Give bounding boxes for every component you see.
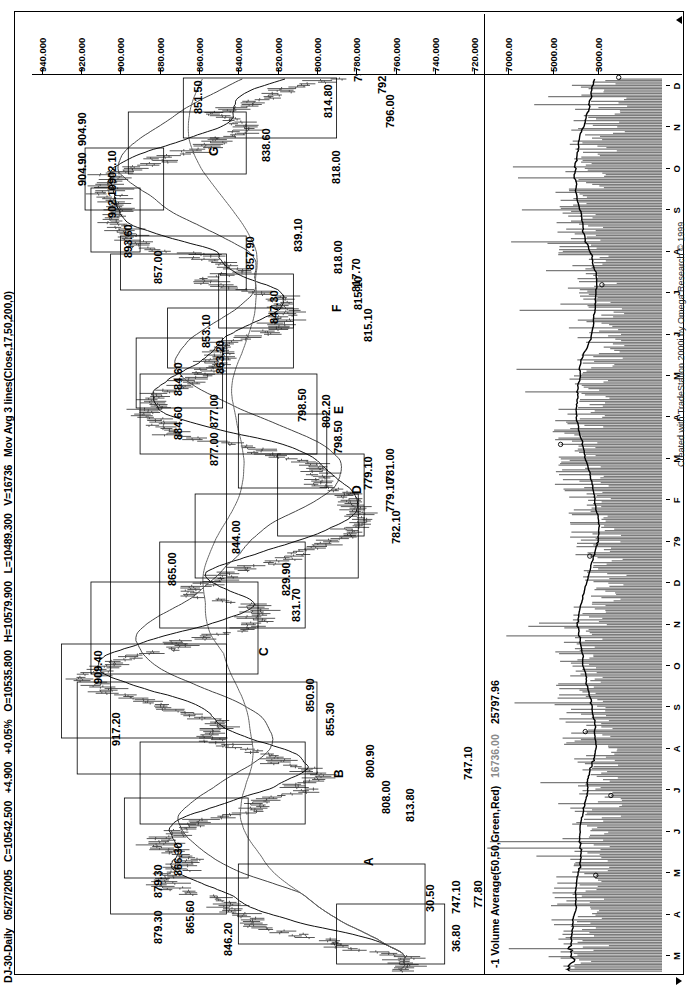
time-axis-tick-mark [666,872,670,873]
time-axis-tick-label: O [671,662,682,669]
price-annotation: 792.20 [352,74,364,82]
price-axis-tick-mark [199,69,200,74]
volume-axis-tick-label: 3000.00 [593,38,604,72]
price-annotation: 853.10 [200,314,212,348]
time-axis-tick-label: D [671,580,682,587]
price-annotation: 904.90 [76,112,88,146]
volume-value-average: 25797.96 [489,680,501,724]
time-axis-tick-label: J [671,788,682,793]
price-series-svg [32,74,484,974]
screenshot-page: DJ-30-Daily 05/27/2005 C=10542.500 +4.90… [0,0,697,987]
volume-axis-tick-label: 7000.00 [502,38,513,72]
price-annotation: 808.00 [380,780,392,814]
price-axis-tick-mark [81,69,82,74]
time-axis-tick-label: A [671,745,682,752]
price-annotation: 877.00 [208,432,220,466]
time-axis-tick-mark [666,541,670,542]
price-plot: 36.80747.1030.5077.80846.20865.60879.308… [32,74,484,974]
price-annotation: 779.10 [384,478,396,512]
time-axis-tick-mark [666,665,670,666]
scroll-up-arrow-icon[interactable] [676,16,682,24]
price-annotation: 846.20 [222,922,234,956]
price-annotation: 863.20 [214,340,226,374]
price-annotation: 866.30 [172,842,184,876]
price-annotation: 884.60 [172,406,184,440]
header-indicator: Mov Avg 3 lines(Close,17,50,200,0) [2,291,14,457]
price-annotation: 844.00 [230,520,242,554]
time-axis-tick-mark [666,789,670,790]
header-volume: V=16736 [2,465,14,506]
swing-label-a: A [362,857,376,866]
price-axis-tick-mark [435,69,436,74]
time-axis-tick-mark [666,416,670,417]
time-axis-tick-label: O [671,165,682,172]
price-annotation: 909.40 [92,650,104,684]
price-axis-tick-mark [474,69,475,74]
price-axis-tick-mark [396,69,397,74]
price-axis-tick-label: 840.000 [233,38,244,72]
price-annotation: 879.30 [152,910,164,944]
price-annotation: 865.00 [166,552,178,586]
header-change: +4.900 [2,762,14,793]
price-annotation: 802.20 [320,394,332,428]
time-axis-tick-mark [666,706,670,707]
time-axis-tick-mark [666,168,670,169]
price-annotation: 747.10 [462,746,474,780]
price-annotation: 902.10 [106,150,118,184]
price-annotation: 815.10 [362,308,374,342]
price-annotation: 813.80 [404,788,416,822]
time-axis: MAMJJASOND79FMAMJJASOND [666,74,682,974]
swing-label-c: C [257,647,271,656]
time-axis-tick-mark [666,914,670,915]
header-date: 05/27/2005 [2,870,14,921]
price-axis-tick-mark [278,69,279,74]
price-annotation: 747.10 [450,880,462,914]
price-annotation: 838.60 [260,128,272,162]
price-annotation: 847.30 [268,290,280,324]
price-axis-tick-label: 940.000 [36,38,47,72]
header-low: L=10489.300 [2,513,14,573]
price-annotation: 851.50 [192,80,204,114]
header-symbol: DJ-30-Daily [2,928,14,983]
volume-value-current: 16736.00 [489,734,501,778]
header-high: H=10579.900 [2,581,14,642]
price-axis-tick-label: 780.000 [351,38,362,72]
time-axis-tick-mark [666,209,670,210]
time-axis-tick-label: M [671,952,682,960]
price-annotation: 857.90 [244,236,256,270]
price-annotation: 857.00 [152,250,164,284]
volume-axis-tick-mark [553,69,554,74]
price-annotation: 855.30 [324,702,336,736]
time-axis-tick-label: A [671,911,682,918]
time-axis-tick-mark [666,499,670,500]
header-open: O=10535.800 [2,650,14,712]
price-annotation: 796.00 [384,94,396,128]
time-axis-tick-mark [666,334,670,335]
price-axis-tick-label: 740.000 [429,38,440,72]
time-axis-tick-mark [666,458,670,459]
time-axis-tick-label: F [671,497,682,503]
price-axis-tick-label: 880.000 [154,38,165,72]
price-annotation: 818.00 [332,240,344,274]
time-axis-tick-mark [666,292,670,293]
time-axis-tick-mark [666,955,670,956]
chart-canvas-rotated: DJ-30-Daily 05/27/2005 C=10542.500 +4.90… [0,0,697,987]
time-axis-tick-label: S [671,207,682,213]
volume-axis-tick-mark [598,69,599,74]
price-axis-tick-label: 920.000 [76,38,87,72]
price-axis-tick-label: 800.000 [311,38,322,72]
price-axis-tick-mark [317,69,318,74]
price-annotation: 829.90 [280,562,292,596]
price-axis-tick-label: 900.000 [115,38,126,72]
time-axis-tick-mark [666,624,670,625]
price-annotation: 792.20 [376,74,388,94]
price-annotation: 814.80 [322,84,334,118]
price-annotation: 917.20 [110,712,122,746]
price-axis-tick-label: 760.000 [390,38,401,72]
price-annotation: 36.80 [450,924,462,952]
price-annotation: 77.80 [472,880,484,908]
price-axis-tick-mark [356,69,357,74]
price-annotation: 884.60 [172,362,184,396]
scroll-down-arrow-icon[interactable] [676,977,682,985]
time-axis-tick-mark [666,375,670,376]
